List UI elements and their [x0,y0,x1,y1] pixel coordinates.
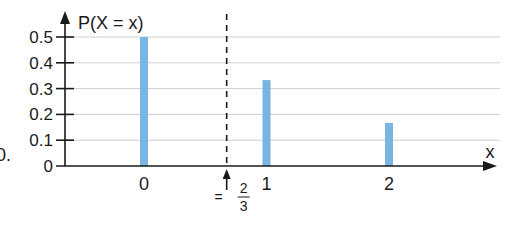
y-axis-title: P(X = x) [78,13,144,33]
y-tick-label: 0.2 [29,105,53,124]
mean-label-denominator: 3 [240,198,248,214]
mean-label-equals: = [215,189,223,205]
bar-x-2 [385,123,393,166]
y-tick-label: 0.5 [29,28,53,47]
x-tick-label: 2 [384,174,394,194]
mean-arrow-icon [223,169,231,179]
cropped-text-fragment: 0. [0,145,11,165]
bar-x-0 [140,37,148,166]
y-tick-label: 0.4 [29,54,53,73]
y-axis-arrow-icon [60,11,70,24]
mean-label-numerator: 2 [240,180,248,196]
x-axis-arrow-icon [483,161,497,171]
probability-bar-chart: 00.10.20.30.40.5012P(X = x)x=230. [0,0,510,233]
y-tick-label: 0.1 [29,131,53,150]
y-tick-label: 0 [44,157,53,176]
x-axis-title: x [486,142,495,162]
bar-x-1 [263,80,271,166]
x-tick-label: 1 [261,174,271,194]
x-tick-label: 0 [139,174,149,194]
y-tick-label: 0.3 [29,80,53,99]
